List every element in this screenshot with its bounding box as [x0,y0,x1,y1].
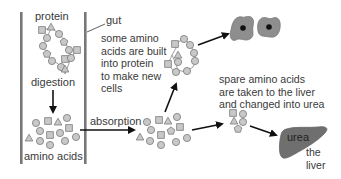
gut-pointer-line [87,24,105,32]
urea-label: urea [287,131,309,144]
gut-label: gut [106,14,121,27]
liver-note: spare amino acids are taken to the liver… [219,73,324,111]
liver-label: the liver [306,146,325,171]
digestion-label: digestion [31,76,75,89]
new-protein-chain [165,35,199,75]
absorption-label: absorption [90,115,141,128]
protein-chain [39,23,81,74]
new-cells-note: some amino acids are built into protein … [101,32,166,95]
spare-amino-acids [230,110,247,133]
arrow-to-liver [250,126,276,135]
protein-label: protein [35,10,69,23]
arrow-to-cells [198,34,228,45]
new-cells [230,16,280,40]
gut-wall-right [84,12,87,164]
digestion-diagram: protein gut digestion amino acids absorp… [0,0,341,179]
gut-wall-left [20,12,23,164]
amino-acids-blood [136,113,190,148]
amino-acids-label: amino acids [24,150,83,163]
arrow-to-spare-amino-acids [192,124,222,130]
amino-acids-gut [25,114,79,148]
arrow-to-new-protein [165,84,176,112]
